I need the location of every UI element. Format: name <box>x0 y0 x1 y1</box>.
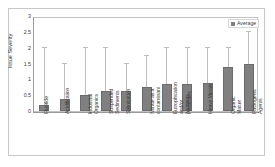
y-tick-label: 1 <box>28 77 31 82</box>
error-bar-cap <box>246 31 251 32</box>
error-bar-stem <box>248 32 249 64</box>
y-axis-line <box>33 17 34 113</box>
error-bar-cap <box>226 47 231 48</box>
x-axis-label: Industrial Organics <box>87 66 99 114</box>
chart-legend: Average <box>228 19 259 28</box>
x-axis-label: Salinization <box>125 66 131 114</box>
error-bar-cap <box>144 55 149 56</box>
error-bar-stem <box>228 48 229 67</box>
error-bar-cap <box>124 63 129 64</box>
x-axis-label: Heavy Metals <box>207 66 213 114</box>
error-bar-cap <box>62 63 67 64</box>
y-tick-label: 0.5 <box>24 93 31 98</box>
x-axis-label: Organic Matter <box>230 66 242 114</box>
legend-swatch-average <box>231 22 235 26</box>
error-bar-stem <box>85 48 86 96</box>
y-tick-label: 2.5 <box>24 30 31 35</box>
x-axis-label: Fluoride <box>43 66 49 114</box>
x-axis-label: Pesticides <box>186 66 192 114</box>
y-tick-label: 2 <box>28 46 31 51</box>
error-bar-cap <box>42 47 47 48</box>
y-tick-label: 0 <box>28 109 31 114</box>
x-axis-label: Acidification <box>64 66 70 114</box>
error-bar-stem <box>146 56 147 88</box>
x-axis-label: Nitrate as a contaminant <box>149 66 161 114</box>
legend-label-average: Average <box>237 21 256 26</box>
figure-container: 00.511.522.53 Issue Severity FluorideAci… <box>0 0 275 167</box>
y-axis-title: Issue Severity <box>7 24 13 78</box>
y-tick-label: 1.5 <box>24 62 31 67</box>
y-tick-label: 3 <box>28 14 31 19</box>
error-bar-stem <box>105 48 106 92</box>
error-bar-cap <box>185 47 190 48</box>
error-bar-cap <box>164 47 169 48</box>
x-axis-label: Suspended Sediments <box>108 66 120 114</box>
y-axis-tick-labels: 00.511.522.53 <box>14 0 31 167</box>
error-bar-cap <box>83 47 88 48</box>
bar <box>162 84 172 111</box>
error-bar-cap <box>205 47 210 48</box>
error-bar-stem <box>166 48 167 85</box>
x-axis-label: Pathogenic Agents <box>251 66 263 114</box>
error-bar-cap <box>103 47 108 48</box>
